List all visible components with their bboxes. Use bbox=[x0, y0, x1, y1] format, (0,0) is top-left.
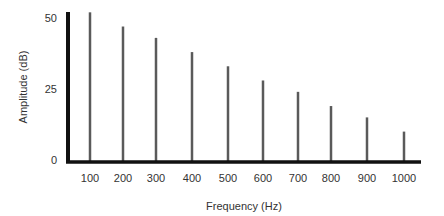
x-tick-label: 800 bbox=[322, 172, 340, 184]
x-tick-label: 300 bbox=[147, 172, 165, 184]
x-tick-label: 1000 bbox=[392, 172, 416, 184]
x-tick-label: 700 bbox=[289, 172, 307, 184]
x-tick-label: 600 bbox=[254, 172, 272, 184]
x-tick-label: 400 bbox=[183, 172, 201, 184]
y-axis-title: Amplitude (dB) bbox=[17, 51, 29, 124]
spectrum-stems bbox=[90, 12, 404, 162]
y-tick-label: 25 bbox=[45, 83, 57, 95]
x-tick-label: 500 bbox=[219, 172, 237, 184]
x-tick-label: 100 bbox=[81, 172, 99, 184]
y-tick-label: 50 bbox=[45, 12, 57, 24]
amplitude-spectrum-chart: 02550 1002003004005006007008009001000 Am… bbox=[0, 0, 444, 216]
x-tick-label: 200 bbox=[114, 172, 132, 184]
x-tick-label: 900 bbox=[358, 172, 376, 184]
y-tick-labels: 02550 bbox=[45, 12, 57, 166]
y-tick-label: 0 bbox=[51, 154, 57, 166]
x-tick-labels: 1002003004005006007008009001000 bbox=[81, 172, 416, 184]
x-axis-title: Frequency (Hz) bbox=[206, 200, 282, 212]
